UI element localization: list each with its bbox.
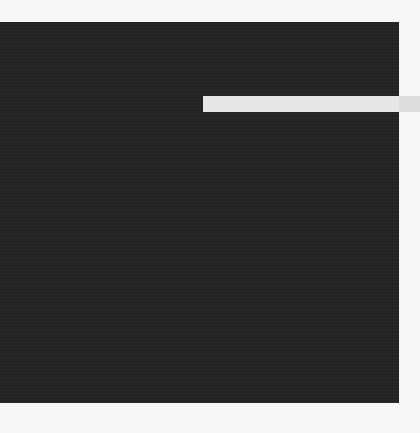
light-bar (203, 96, 420, 112)
light-bar-overhang (399, 96, 420, 112)
dark-square (0, 22, 399, 403)
